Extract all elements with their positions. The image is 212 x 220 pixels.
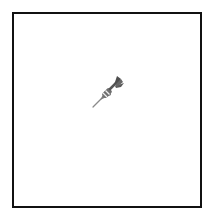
dart-icon	[90, 74, 126, 110]
canvas-frame	[12, 12, 202, 208]
